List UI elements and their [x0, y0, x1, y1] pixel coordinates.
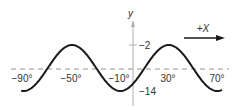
- y-tick-label-bottom: −14: [139, 86, 156, 97]
- sinusoid-diagram: y −2 −14 −90° −50° −10° 30° 70° +X: [0, 0, 237, 110]
- x-tick-label: −50°: [61, 73, 82, 84]
- y-axis-arrow-icon: [131, 20, 135, 27]
- direction-label: +X: [197, 23, 210, 34]
- y-axis-label: y: [127, 8, 134, 19]
- x-tick-label: −90°: [12, 73, 33, 84]
- sine-curve: [21, 45, 222, 91]
- x-tick-label: −10°: [109, 73, 130, 84]
- y-tick-label-top: −2: [139, 40, 151, 51]
- direction-arrow-icon: [216, 35, 225, 41]
- x-tick-label: 70°: [209, 73, 224, 84]
- x-tick-label: 30°: [160, 73, 175, 84]
